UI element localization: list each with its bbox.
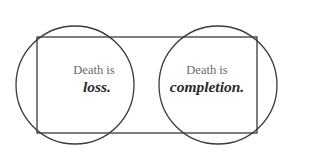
left-label-line1: Death is <box>60 63 128 78</box>
right-label-line2: completion. <box>163 78 251 96</box>
right-label: Death is completion. <box>163 63 251 96</box>
right-label-line1: Death is <box>163 63 251 78</box>
left-label-line2: loss. <box>60 78 128 96</box>
left-label: Death is loss. <box>60 63 128 96</box>
